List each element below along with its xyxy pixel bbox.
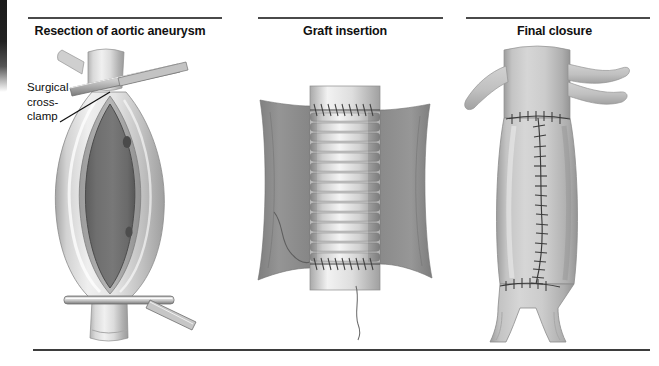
aneurysm-sac-flap-right [380, 104, 432, 278]
panel-graft-insertion: Graft insertion [240, 0, 450, 366]
panel-final-closure: Final closure [450, 0, 659, 366]
callout-line-1: Surgical [27, 80, 69, 95]
suture-tail [356, 286, 360, 340]
closure-illustration [450, 0, 659, 366]
graft-cuff-proximal [310, 86, 380, 112]
renal-artery-left [465, 66, 508, 110]
renal-artery-right-lower [568, 82, 627, 104]
lumbar-ostium-upper [123, 136, 131, 148]
resection-illustration [0, 0, 240, 366]
panel-resection: Resection of aortic aneurysm [0, 0, 240, 366]
callout-surgical-cross-clamp: Surgical cross- clamp [27, 80, 69, 124]
callout-line-3: clamp [27, 109, 69, 124]
graft-shadow-left [310, 112, 317, 262]
graft-cuff-distal [310, 262, 380, 290]
figure-bottom-rule [33, 349, 650, 351]
aorta-distal-neck [90, 300, 128, 341]
aorta-proximal [504, 46, 570, 118]
surgical-cross-clamp-distal [64, 296, 196, 330]
callout-line-2: cross- [27, 95, 69, 110]
figure-container: Resection of aortic aneurysm [0, 0, 659, 366]
lumbar-ostium-lower [125, 227, 132, 238]
aneurysm-sac-flap-left [258, 100, 310, 280]
renal-artery-right-upper [568, 64, 629, 83]
aorta-branch-upper-left [58, 50, 85, 74]
graft-illustration [240, 0, 450, 366]
graft-shadow-right [368, 112, 380, 262]
aortic-bifurcation [490, 284, 574, 342]
